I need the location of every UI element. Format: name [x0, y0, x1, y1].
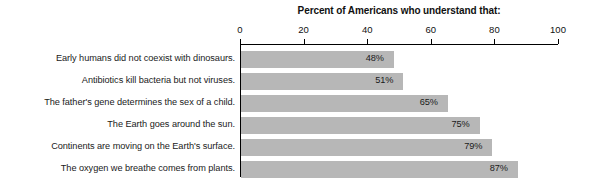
x-tick-mark [304, 39, 305, 44]
bar-row: Early humans did not coexist with dinosa… [0, 50, 591, 72]
category-label: The oxygen we breathe comes from plants. [61, 163, 235, 173]
bar-row: Antibiotics kill bacteria but not viruse… [0, 72, 591, 94]
category-label: Antibiotics kill bacteria but not viruse… [82, 75, 235, 85]
bar-value-label: 79% [464, 141, 482, 151]
x-tick-label: 0 [237, 24, 242, 35]
plot-area: Early humans did not coexist with dinosa… [0, 50, 591, 183]
x-tick-mark [431, 39, 432, 44]
bar-value-label: 65% [420, 97, 438, 107]
bar [241, 161, 518, 178]
x-axis: 020406080100 [240, 24, 558, 46]
bar-row: The Earth goes around the sun.75% [0, 116, 591, 138]
bar-row: Continents are moving on the Earth's sur… [0, 138, 591, 160]
bar-chart: Percent of Americans who understand that… [0, 0, 591, 195]
x-tick-mark [558, 39, 559, 44]
category-label: Early humans did not coexist with dinosa… [56, 53, 235, 63]
x-tick-label: 100 [550, 24, 566, 35]
x-tick-label: 60 [426, 24, 437, 35]
bar [241, 139, 492, 156]
bar [241, 95, 448, 112]
bar-value-label: 51% [375, 75, 393, 85]
chart-title: Percent of Americans who understand that… [240, 5, 558, 16]
x-tick-mark [494, 39, 495, 44]
bar-row: The oxygen we breathe comes from plants.… [0, 160, 591, 182]
x-tick-label: 80 [489, 24, 500, 35]
x-tick-mark [367, 39, 368, 44]
x-tick-label: 40 [362, 24, 373, 35]
x-axis-line [240, 44, 558, 45]
bar-value-label: 48% [366, 53, 384, 63]
category-label: The Earth goes around the sun. [107, 119, 235, 129]
category-label: The father's gene determines the sex of … [44, 97, 235, 107]
category-label: Continents are moving on the Earth's sur… [51, 141, 235, 151]
x-tick-label: 20 [298, 24, 309, 35]
bar-value-label: 87% [490, 163, 508, 173]
bar-value-label: 75% [452, 119, 470, 129]
bar [241, 117, 480, 134]
bar-row: The father's gene determines the sex of … [0, 94, 591, 116]
